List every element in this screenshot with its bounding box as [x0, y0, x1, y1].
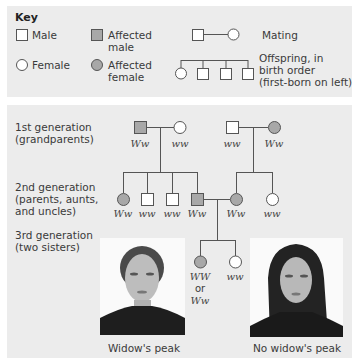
- key-offspring-3-icon: [221, 69, 232, 80]
- key-affected-female-label: Affected: [108, 59, 152, 71]
- gen3-sublabel: (two sisters): [15, 241, 80, 253]
- g2-affected-female-icon: [231, 194, 243, 206]
- key-female-label: Female: [32, 59, 70, 71]
- genotype: ww: [226, 271, 243, 282]
- key-offspring-label-2: birth order: [259, 64, 315, 76]
- gen3-label: 3rd generation: [15, 229, 93, 241]
- gen1-sublabel: (grandparents): [15, 133, 94, 145]
- genotype: Ww: [114, 208, 133, 219]
- key-offspring-2-icon: [198, 69, 209, 80]
- genotype: ww: [138, 208, 155, 219]
- genotype: ww: [223, 138, 240, 149]
- g2-affected-female-icon: [118, 194, 130, 206]
- key-female-icon: [17, 60, 28, 71]
- key-mating-female-icon: [228, 29, 239, 40]
- genotype: ww: [171, 138, 188, 149]
- key-offspring-4-icon: [243, 69, 254, 80]
- g3-female-icon: [230, 256, 242, 268]
- g1-affected-male-icon: [135, 122, 147, 134]
- key-offspring-label-1: Offspring, in: [259, 52, 323, 64]
- genotype-or: or: [195, 283, 205, 294]
- caption-widows-peak: Widow's peak: [108, 342, 180, 354]
- key-affected-female-label-2: female: [108, 71, 144, 83]
- key-offspring-label-3: (first-born on left): [259, 76, 352, 88]
- key-affected-female-icon: [92, 60, 103, 71]
- caption-no-widows-peak: No widow's peak: [253, 342, 341, 354]
- g1-male-icon: [227, 122, 239, 134]
- key-affected-male-label: Affected: [108, 29, 152, 41]
- genotype: Ww: [191, 295, 210, 306]
- genotype: WW: [190, 271, 211, 282]
- gen1-label: 1st generation: [15, 121, 92, 133]
- g2-male-icon: [167, 194, 179, 206]
- g1-affected-female-icon: [269, 122, 281, 134]
- genotype: Ww: [131, 138, 150, 149]
- gen2-sublabel-1: (parents, aunts,: [15, 193, 98, 205]
- key-mating-male-icon: [193, 30, 204, 41]
- gen2-sublabel-2: and uncles): [15, 205, 76, 217]
- g1-female-icon: [174, 122, 186, 134]
- genotype: Ww: [265, 138, 284, 149]
- g2-affected-male-icon: [192, 194, 204, 206]
- g3-affected-female-icon: [195, 256, 207, 268]
- key-male-icon: [17, 30, 28, 41]
- genotype: ww: [163, 208, 180, 219]
- genotype: Ww: [188, 208, 207, 219]
- genotype: ww: [263, 208, 280, 219]
- key-mating-label: Mating: [262, 29, 298, 41]
- key-affected-male-icon: [92, 30, 103, 41]
- genotype: Ww: [227, 208, 246, 219]
- key-male-label: Male: [32, 29, 57, 41]
- g2-male-icon: [142, 194, 154, 206]
- key-affected-male-label-2: male: [108, 41, 134, 53]
- g2-female-icon: [267, 194, 279, 206]
- gen2-label: 2nd generation: [15, 181, 95, 193]
- key-title: Key: [15, 12, 38, 24]
- key-offspring-1-icon: [176, 68, 187, 79]
